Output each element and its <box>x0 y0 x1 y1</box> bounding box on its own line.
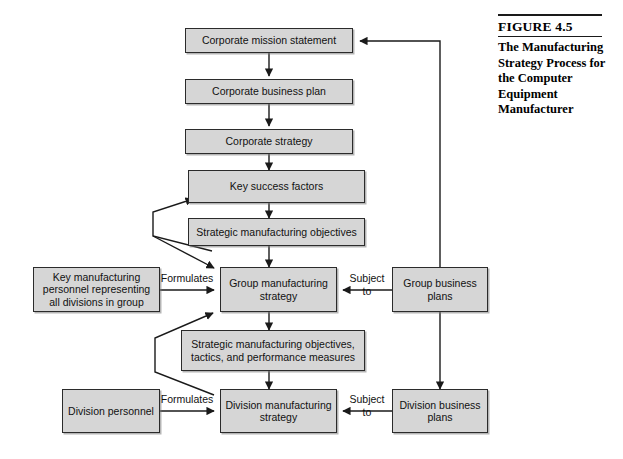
edge-label-text: Formulates <box>161 272 214 284</box>
figure-title: The Manufacturing Strategy Process for t… <box>498 40 610 118</box>
edge-label-text-line1: Subject <box>349 272 384 284</box>
edge-label-text-line1: Subject <box>349 393 384 405</box>
arrow-feedback-to-corporate-mission <box>360 41 440 267</box>
node-label: Division manufacturing strategy <box>225 399 332 424</box>
node-label: Corporate mission statement <box>202 34 336 47</box>
node-label: Group business plans <box>397 277 483 302</box>
node-division-personnel[interactable]: Division personnel <box>62 389 160 433</box>
edge-label-text-line2: to <box>363 406 372 418</box>
node-label: Key manufacturing personnel representing… <box>38 271 155 309</box>
node-label: Corporate business plan <box>212 85 326 98</box>
node-label: Group manufacturing strategy <box>225 277 332 302</box>
node-label: Division personnel <box>68 405 154 418</box>
caption-rule-top <box>498 14 602 16</box>
node-strategic-manufacturing-objectives[interactable]: Strategic manufacturing objectives <box>188 218 365 246</box>
edge-label-text-line2: to <box>363 285 372 297</box>
figure-caption: FIGURE 4.5 The Manufacturing Strategy Pr… <box>498 14 610 118</box>
node-label: Strategic manufacturing objectives, tact… <box>186 338 360 363</box>
node-label: Corporate strategy <box>226 135 313 148</box>
edge-label-formulates-division: Formulates <box>160 393 214 406</box>
node-label: Strategic manufacturing objectives <box>196 226 357 239</box>
edge-label-text: Formulates <box>161 393 214 405</box>
node-division-manufacturing-strategy[interactable]: Division manufacturing strategy <box>220 389 337 433</box>
node-key-success-factors[interactable]: Key success factors <box>188 170 365 203</box>
node-corporate-business-plan[interactable]: Corporate business plan <box>185 79 353 104</box>
node-key-manufacturing-personnel[interactable]: Key manufacturing personnel representing… <box>33 267 160 312</box>
edge-label-formulates-group: Formulates <box>160 272 214 285</box>
node-label: Key success factors <box>230 180 323 193</box>
edge-label-subject-to-division: Subject to <box>340 393 394 418</box>
node-division-business-plans[interactable]: Division business plans <box>392 389 488 433</box>
node-group-business-plans[interactable]: Group business plans <box>392 267 488 312</box>
figure-number: FIGURE 4.5 <box>498 19 610 34</box>
node-corporate-strategy[interactable]: Corporate strategy <box>185 129 353 154</box>
node-strategic-objectives-tactics-measures[interactable]: Strategic manufacturing objectives, tact… <box>181 330 365 371</box>
node-label: Division business plans <box>397 399 483 424</box>
node-group-manufacturing-strategy[interactable]: Group manufacturing strategy <box>220 267 337 312</box>
caption-rule-middle <box>498 36 602 38</box>
edge-label-subject-to-group: Subject to <box>340 272 394 297</box>
node-corporate-mission-statement[interactable]: Corporate mission statement <box>185 28 353 53</box>
